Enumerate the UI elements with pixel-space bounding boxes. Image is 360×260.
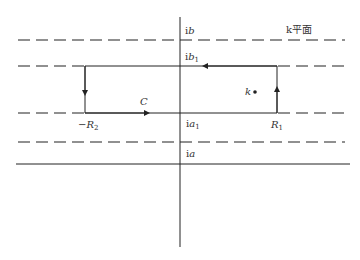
plane-label: k平面 (286, 24, 312, 35)
label-ib: ib (185, 25, 195, 36)
label-ib1: ib1 (185, 51, 199, 64)
label-r1: R1 (270, 119, 283, 132)
point-k-dot (253, 90, 257, 94)
label-contour-c: C (140, 96, 148, 107)
label-point-k: k (245, 86, 251, 97)
label-neg-r2: −R2 (78, 119, 98, 132)
label-ia1: ia1 (186, 118, 200, 131)
complex-plane-diagram: k平面 ib ib1 ia1 ia −R2 R1 C k (0, 0, 360, 260)
label-ia: ia (186, 148, 195, 159)
